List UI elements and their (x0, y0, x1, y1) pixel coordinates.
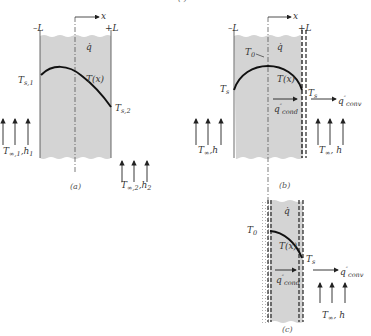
panel-c (261, 200, 345, 323)
right-surface-temp-b: Ts (308, 89, 317, 100)
x-axis-label-b: x (293, 12, 298, 21)
left-surface-temp-a: Ts,1 (18, 76, 34, 87)
fluid-arrows-left-b (196, 119, 221, 145)
profile-label-a: T(x) (86, 75, 104, 84)
generation-label-c: q̇ (284, 207, 290, 216)
wall-a (40, 35, 111, 159)
left-bound-label-b: –L (228, 24, 238, 33)
generation-label-b: q̇ (277, 43, 283, 52)
diagram-canvas (0, 0, 371, 336)
center-temp-b: T0 (245, 48, 255, 59)
right-surface-temp-a: Ts,2 (115, 104, 131, 115)
left-surface-temp-b: Ts (220, 85, 229, 96)
center-temp-c: T0 (247, 226, 257, 237)
left-bound-label-a: –L (33, 24, 43, 33)
right-bound-label-b: +L (298, 24, 312, 33)
panel-b (196, 17, 343, 200)
cond-flux-label-c: q″cond (276, 274, 300, 287)
right-fluid-label-b: T∞, h (319, 146, 342, 157)
conv-flux-label-b: q″conv (338, 95, 361, 108)
profile-label-b: T(x) (277, 75, 295, 84)
x-axis-label-a: x (101, 12, 106, 21)
caption-b: (b) (279, 182, 290, 190)
generation-label-a: q̇ (86, 43, 92, 52)
left-fluid-label-b: T∞,h (198, 146, 218, 157)
conv-flux-label-c: q″conv (340, 266, 363, 279)
insulation-c (261, 200, 270, 323)
caption-a: (a) (70, 183, 81, 191)
fluid-arrows-left-a (3, 119, 28, 145)
fluid-arrows-right-a (122, 161, 147, 182)
header-fragment: ( ) (178, 0, 187, 3)
left-fluid-label-a: T∞,1,h1 (3, 147, 33, 158)
cond-flux-label-b: q″cond (274, 103, 298, 116)
caption-c: (c) (282, 326, 293, 334)
right-fluid-label-c: T∞, h (322, 311, 345, 322)
wall-c (270, 200, 303, 323)
profile-label-c: T(x) (279, 242, 297, 251)
right-bound-label-a: +L (105, 24, 119, 33)
fluid-arrows-right-b (318, 119, 343, 145)
right-surface-temp-c: Ts (306, 255, 315, 266)
right-fluid-label-a: T∞,2,h2 (121, 181, 151, 192)
fluid-arrows-right-c (320, 283, 345, 303)
